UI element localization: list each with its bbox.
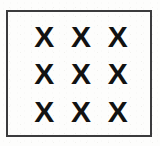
x-mark-icon: X xyxy=(71,97,91,127)
grid-cell-r2c2: X xyxy=(63,56,100,94)
screenshot-root: X X X X X X X X X xyxy=(0,0,160,146)
grid-cell-r2c3: X xyxy=(99,56,136,94)
x-mark-icon: X xyxy=(34,59,54,89)
bordered-frame: X X X X X X X X X xyxy=(6,10,152,137)
grid-cell-r1c2: X xyxy=(63,18,100,56)
x-mark-icon: X xyxy=(71,59,91,89)
grid-cell-r1c3: X xyxy=(99,18,136,56)
x-mark-icon: X xyxy=(34,22,54,52)
x-mark-icon: X xyxy=(34,97,54,127)
grid-cell-r2c1: X xyxy=(26,56,63,94)
grid-cell-r3c3: X xyxy=(99,93,136,131)
x-mark-grid: X X X X X X X X X xyxy=(8,12,150,135)
x-mark-icon: X xyxy=(108,97,128,127)
x-mark-icon: X xyxy=(108,22,128,52)
grid-cell-r1c1: X xyxy=(26,18,63,56)
x-mark-icon: X xyxy=(71,22,91,52)
x-mark-icon: X xyxy=(108,59,128,89)
grid-cell-r3c2: X xyxy=(63,93,100,131)
grid-cell-r3c1: X xyxy=(26,93,63,131)
